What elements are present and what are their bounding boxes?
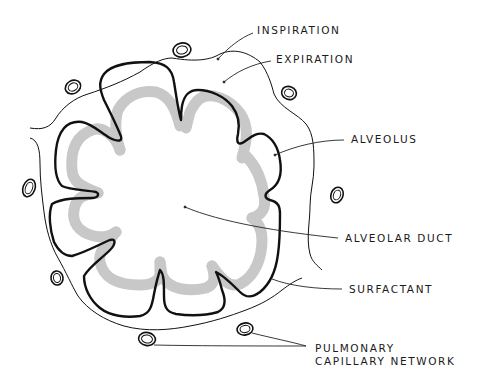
leader-capillary-2 [252,333,306,346]
label-inspiration: INSPIRATION [257,24,341,36]
label-expiration: EXPIRATION [276,53,354,65]
leader-surfactant [272,279,342,289]
label-capillary-network: CAPILLARY NETWORK [315,355,455,367]
alveolar-duct-diagram [0,0,479,383]
leader-alveolus [275,140,344,155]
label-surfactant: SURFACTANT [349,283,433,295]
leader-capillary-1 [154,345,306,346]
label-pulmonary: PULMONARY [315,342,395,354]
leader-lines [154,33,344,346]
leader-inspiration [218,33,253,59]
label-alveolar-duct: ALVEOLAR DUCT [345,232,453,244]
label-alveolus: ALVEOLUS [351,133,417,145]
pulmonary-capillaries [20,42,345,347]
leader-expiration [224,61,271,82]
